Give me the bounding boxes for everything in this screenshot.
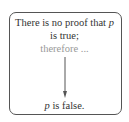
- down-arrow-icon: [63, 57, 67, 98]
- premise-text: There is no proof that: [15, 17, 109, 28]
- premise-line-2: is true;: [0, 30, 129, 42]
- conclusion-text: is false.: [50, 100, 85, 111]
- premise-variable: p: [109, 17, 114, 28]
- premise-line-1: There is no proof that p: [0, 17, 129, 29]
- conclusion-line: p is false.: [0, 100, 129, 112]
- therefore-connector: therefore ...: [0, 43, 129, 55]
